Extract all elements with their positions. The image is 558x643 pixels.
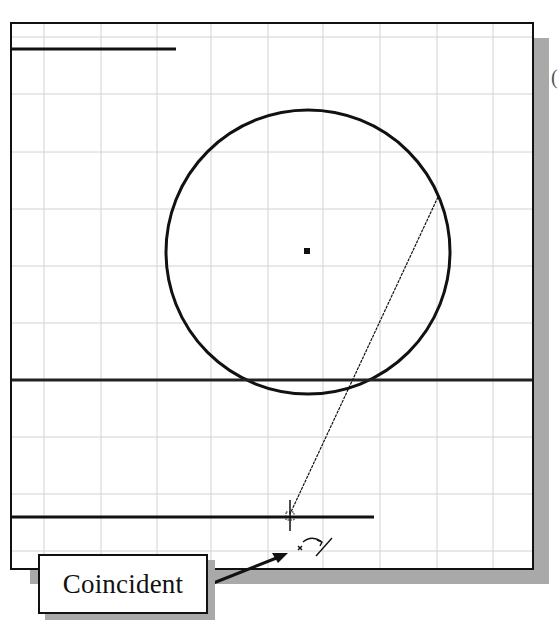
callout-label: Coincident — [63, 569, 183, 600]
circle-center-point[interactable] — [304, 248, 310, 254]
coincident-callout: Coincident — [38, 554, 208, 614]
cropped-edge-text: ( — [551, 66, 558, 89]
sketch-canvas[interactable] — [11, 23, 533, 569]
